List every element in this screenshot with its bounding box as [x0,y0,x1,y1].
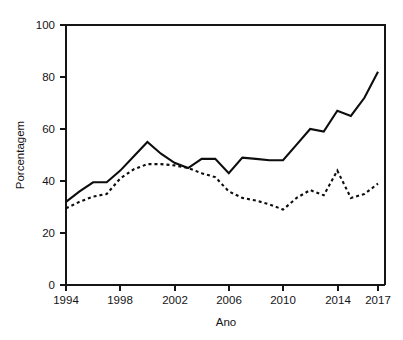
y-tick-label-40: 40 [42,175,55,187]
x-tick-label-2017: 2017 [365,294,391,306]
plot-frame [66,25,385,285]
y-tick-label-60: 60 [42,123,55,135]
y-tick-label-0: 0 [49,279,55,291]
line-chart: 0 20 40 60 80 100 1994 1998 2002 2006 20… [0,0,403,340]
x-axis-tick-labels: 1994 1998 2002 2006 2010 2014 2017 [53,294,391,306]
x-tick-label-2006: 2006 [216,294,242,306]
x-axis-title: Ano [216,316,236,328]
series-line-solid [66,72,378,202]
y-axis-tick-labels: 0 20 40 60 80 100 [36,19,55,291]
x-tick-label-2014: 2014 [325,294,351,306]
x-axis-ticks [66,285,378,291]
x-tick-label-2010: 2010 [270,294,296,306]
y-axis-title: Porcentagem [14,121,26,189]
series-line-dashed [66,164,378,210]
chart-figure: 0 20 40 60 80 100 1994 1998 2002 2006 20… [0,0,403,340]
x-tick-label-1998: 1998 [107,294,133,306]
y-tick-label-100: 100 [36,19,55,31]
y-axis-ticks [60,25,66,285]
x-tick-label-1994: 1994 [53,294,79,306]
x-tick-label-2002: 2002 [162,294,188,306]
y-tick-label-20: 20 [42,227,55,239]
y-tick-label-80: 80 [42,71,55,83]
